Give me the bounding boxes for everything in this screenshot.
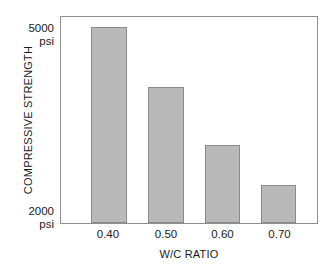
bar	[261, 185, 296, 223]
bar-chart: COMPRESSIVE STRENGTH 5000 psi 2000 psi 0…	[0, 0, 333, 270]
plot-area	[60, 16, 318, 224]
y-axis-min-unit: psi	[8, 218, 54, 231]
y-axis-min-value: 2000	[8, 205, 54, 218]
x-axis-tick-label: 0.50	[136, 228, 196, 240]
bar	[91, 27, 127, 223]
bar	[148, 87, 184, 223]
x-axis-tick-label: 0.60	[193, 228, 253, 240]
y-axis-max-value: 5000	[8, 22, 54, 35]
x-axis-title: W/C RATIO	[60, 248, 318, 260]
y-axis-max-unit: psi	[8, 35, 54, 48]
y-axis-min-label: 2000 psi	[8, 205, 54, 231]
bar	[205, 145, 240, 223]
bars-layer	[61, 17, 317, 223]
x-axis-tick-label: 0.70	[250, 228, 310, 240]
x-axis-tick-label: 0.40	[78, 228, 138, 240]
y-axis-max-label: 5000 psi	[8, 22, 54, 48]
